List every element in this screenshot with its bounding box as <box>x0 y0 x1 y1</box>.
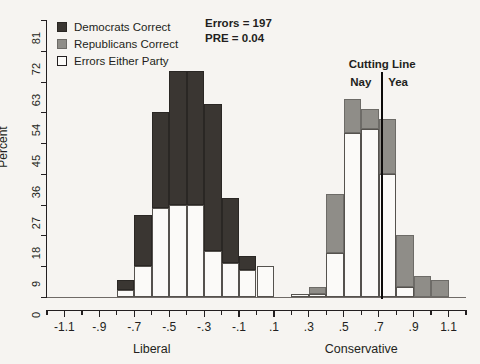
histogram-bar <box>396 235 413 297</box>
bar-segment-democrats <box>187 71 204 204</box>
x-axis-label-conservative: Conservative <box>316 342 406 356</box>
bar-segment-republicans <box>431 280 448 297</box>
bar-segment-errors <box>169 205 186 297</box>
y-axis-tick-label: 81 <box>29 20 43 56</box>
x-axis-tick-major <box>238 310 239 317</box>
bar-segment-errors <box>291 294 308 297</box>
bar-segment-democrats <box>169 71 186 204</box>
bar-segment-errors <box>239 270 256 297</box>
y-axis-tick-label: 72 <box>29 51 43 87</box>
x-axis-tick-minor <box>81 310 82 315</box>
x-axis-tick-major <box>448 310 449 317</box>
bar-segment-errors <box>117 290 134 297</box>
bar-segment-errors <box>187 205 204 297</box>
err-swatch-icon <box>57 56 67 66</box>
statistics-annotation: Errors = 197 PRE = 0.04 <box>205 16 272 46</box>
bar-segment-errors <box>222 263 239 297</box>
histogram-bar <box>326 194 343 297</box>
bar-segment-republicans <box>326 194 343 252</box>
dem-swatch-icon <box>57 22 67 32</box>
roll-call-histogram-figure: Percent 091827364554637281 -1.1-.9-.7-.5… <box>0 0 480 364</box>
x-axis-tick-major <box>378 310 379 317</box>
x-axis-tick-major <box>273 310 274 317</box>
bar-segment-errors <box>396 287 413 297</box>
bar-segment-errors <box>204 251 221 297</box>
legend-item-label: Republicans Correct <box>74 38 178 50</box>
histogram-bar <box>204 104 221 297</box>
x-axis-tick-major <box>308 310 309 317</box>
bar-segment-errors <box>326 253 343 297</box>
bar-segment-democrats <box>222 198 239 263</box>
x-axis-tick-minor <box>186 310 187 315</box>
bar-segment-democrats <box>152 112 169 208</box>
x-axis-tick-minor <box>465 310 466 315</box>
x-axis-label-liberal: Liberal <box>112 342 192 356</box>
bar-segment-republicans <box>361 109 378 130</box>
errors-statistic: Errors = 197 <box>205 16 272 31</box>
y-axis-tick-label: 27 <box>29 205 43 241</box>
bar-segment-errors <box>361 129 378 297</box>
y-axis-title: Percent <box>0 126 10 167</box>
x-axis-tick-label: 1.1 <box>429 320 469 334</box>
histogram-bar <box>117 280 134 297</box>
x-axis-tick-minor <box>46 310 47 315</box>
bar-segment-democrats <box>239 256 256 270</box>
bar-segment-errors <box>309 294 326 297</box>
x-axis-tick-minor <box>326 310 327 315</box>
x-axis-tick-minor <box>221 310 222 315</box>
bar-segment-republicans <box>344 99 361 133</box>
bar-segment-democrats <box>117 280 134 290</box>
histogram-bar <box>257 266 274 297</box>
plot-baseline <box>47 297 466 298</box>
x-axis-tick-minor <box>291 310 292 315</box>
x-axis-tick-major <box>169 310 170 317</box>
bar-segment-errors <box>134 266 151 297</box>
x-axis-tick-minor <box>151 310 152 315</box>
histogram-bar <box>431 280 448 297</box>
x-axis-tick-major <box>99 310 100 317</box>
bar-segment-democrats <box>134 215 151 266</box>
histogram-bar <box>361 109 378 297</box>
rep-swatch-icon <box>57 39 67 49</box>
histogram-bar <box>309 287 326 297</box>
bar-segment-republicans <box>396 235 413 286</box>
histogram-bar <box>239 256 256 297</box>
histogram-bar <box>344 99 361 297</box>
histogram-bar <box>169 71 186 297</box>
x-axis-tick-minor <box>361 310 362 315</box>
legend-item-democrats-correct: Democrats Correct <box>57 18 178 35</box>
bar-segment-errors <box>257 266 274 297</box>
histogram-bar <box>222 198 239 297</box>
yea-label: Yea <box>388 76 408 88</box>
bar-segment-republicans <box>309 287 326 294</box>
x-axis-tick-major <box>343 310 344 317</box>
legend-item-label: Errors Either Party <box>74 55 169 67</box>
x-axis-tick-minor <box>396 310 397 315</box>
x-axis-tick-major <box>64 310 65 317</box>
chart-legend: Democrats Correct Republicans Correct Er… <box>57 18 178 69</box>
nay-label: Nay <box>350 76 371 88</box>
x-axis-tick-minor <box>430 310 431 315</box>
x-axis-tick-minor <box>116 310 117 315</box>
histogram-bar <box>414 276 431 297</box>
x-axis-tick-minor <box>256 310 257 315</box>
bar-segment-errors <box>344 133 361 297</box>
cutting-line-marker <box>381 72 383 299</box>
cutting-line-label: Cutting Line <box>349 58 416 70</box>
histogram-bar <box>152 112 169 297</box>
bar-segment-republicans <box>414 276 431 297</box>
pre-statistic: PRE = 0.04 <box>205 31 272 46</box>
legend-item-label: Democrats Correct <box>74 21 171 33</box>
y-axis-tick-label: 45 <box>29 143 43 179</box>
y-axis-tick-label: 0 <box>29 297 43 333</box>
y-axis-tick-label: 9 <box>29 266 43 302</box>
legend-item-errors-either-party: Errors Either Party <box>57 52 178 69</box>
histogram-bar <box>187 71 204 297</box>
y-axis-tick-label: 36 <box>29 174 43 210</box>
x-axis-tick-major <box>413 310 414 317</box>
bar-segment-errors <box>152 208 169 297</box>
histogram-bar <box>291 294 308 297</box>
x-axis-tick-major <box>204 310 205 317</box>
legend-item-republicans-correct: Republicans Correct <box>57 35 178 52</box>
histogram-bar <box>134 215 151 297</box>
